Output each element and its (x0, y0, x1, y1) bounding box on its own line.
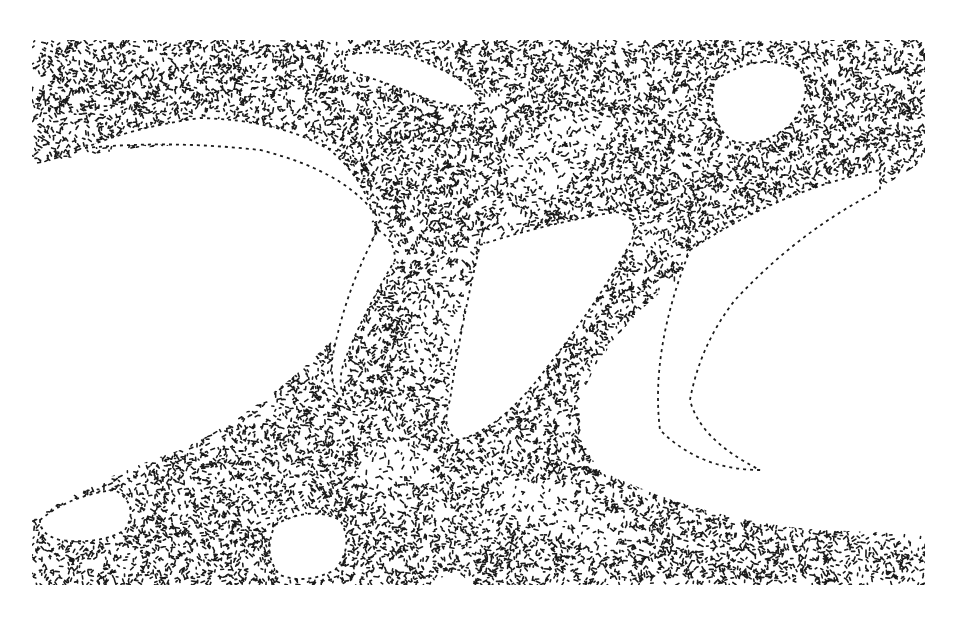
cavity-outline-5 (658, 170, 880, 470)
cavity-outline-4 (712, 62, 805, 143)
illustration-canvas (0, 0, 961, 642)
cavity-layer (40, 52, 880, 579)
cavity-outline-7 (270, 514, 347, 579)
cavity-outline-0 (85, 118, 372, 210)
cavity-outline-6 (40, 490, 131, 541)
stippled-tissue-illustration (0, 0, 961, 642)
